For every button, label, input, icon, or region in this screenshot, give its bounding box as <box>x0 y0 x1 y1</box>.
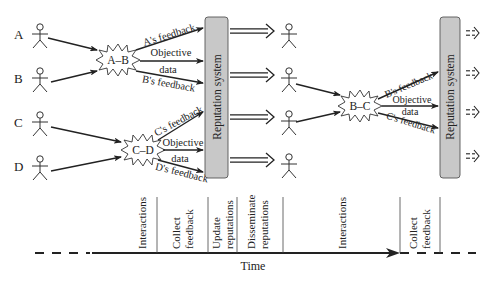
time-axis-label: Time <box>241 259 266 273</box>
phase-collect-2-line1: Collect <box>407 217 419 249</box>
burst-ab-label: A–B <box>107 54 129 66</box>
arrow-a-to-ab <box>48 38 97 50</box>
double-arrow-icon <box>230 24 274 38</box>
phase-collect-line2: feedback <box>183 209 195 249</box>
interaction-bc: B–C B's feedback Objective data C's feed… <box>338 70 438 136</box>
arrow-d-to-cd <box>51 157 121 171</box>
dashed-double-arrow-icon <box>466 27 479 39</box>
reputation-cycle-diagram: A B C D A–B A's feedback Objective data … <box>0 0 494 282</box>
person-icon <box>281 68 297 92</box>
cd-data-label: data <box>171 153 189 164</box>
actor-b: B <box>14 68 48 92</box>
arrow-b-to-bc <box>296 84 340 95</box>
phase-interactions-label: Interactions <box>136 197 148 249</box>
double-arrow-icon <box>230 153 274 167</box>
cd-objective-label: Objective <box>163 137 204 148</box>
dashed-double-arrow-icon <box>466 67 479 79</box>
cd-feedback-bottom-label: D's feedback <box>154 161 210 185</box>
actor-d-label: D <box>14 159 23 174</box>
person-icon <box>281 111 297 135</box>
ab-feedback-top-label: A's feedback <box>142 21 198 48</box>
actor-a: A <box>14 24 48 48</box>
cd-feedback-top-label: C's feedback <box>152 103 205 138</box>
arrow-c-to-cd <box>51 127 121 142</box>
timeline: Time Interactions Collect feedback Updat… <box>35 195 476 273</box>
phase-collect-line1: Collect <box>170 217 182 249</box>
burst-cd-label: C–D <box>132 144 154 156</box>
person-icon <box>281 154 297 178</box>
reputation-system-label: Reputation system <box>444 54 457 139</box>
person-icon <box>32 156 48 180</box>
actor-d: D <box>14 156 48 180</box>
reputation-system-2: Reputation system <box>440 17 460 178</box>
phase-update-line2: reputations <box>223 200 235 249</box>
person-icon <box>32 68 48 92</box>
person-icon <box>32 24 48 48</box>
phase-collect-2-line2: feedback <box>420 209 432 249</box>
interaction-cd: C–D C's feedback Objective data D's feed… <box>121 103 210 185</box>
arrow-b-to-ab <box>51 71 97 82</box>
double-arrow-icon <box>230 68 274 82</box>
bc-objective-label: Objective <box>393 94 432 105</box>
actor-a-label: A <box>14 27 24 42</box>
person-icon <box>32 112 48 136</box>
ab-data-label: data <box>159 64 177 75</box>
phase-disseminate-line1: Disseminate <box>245 195 257 249</box>
reputation-system-label: Reputation system <box>211 54 224 139</box>
reputation-system-1: Reputation system <box>205 17 228 178</box>
arrow-c-to-bc <box>296 112 340 122</box>
dashed-double-arrow-icon <box>466 150 479 162</box>
phase-interactions-2-label: Interactions <box>336 197 348 249</box>
person-icon <box>281 24 297 48</box>
burst-bc-label: B–C <box>349 100 370 112</box>
actor-c: C <box>14 112 48 136</box>
actor-c-label: C <box>14 115 23 130</box>
interaction-ab: A–B A's feedback Objective data B's feed… <box>96 21 203 93</box>
phase-disseminate-line2: reputations <box>258 200 270 249</box>
dashed-double-arrow-icon <box>466 106 479 118</box>
actor-b-label: B <box>14 71 23 86</box>
double-arrow-icon <box>230 110 274 124</box>
ab-objective-label: Objective <box>151 47 192 58</box>
phase-update-line1: Update <box>210 217 222 249</box>
